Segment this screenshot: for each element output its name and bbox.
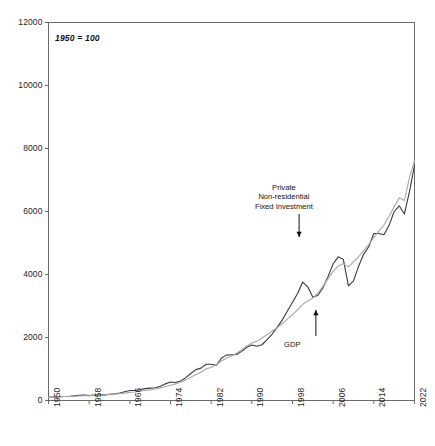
x-axis-tick-label: 1982 — [215, 387, 225, 406]
y-axis-tick-label: 6000 — [0, 206, 43, 216]
x-axis-tick-marks — [49, 401, 415, 405]
series-annotation-private-nonresidential-fixed-investment: PrivateNon-residentialFixed Investment — [255, 183, 313, 211]
x-axis-tick-label: 2014 — [377, 387, 387, 406]
series-annotation-gdp: GDP — [284, 340, 300, 349]
x-axis-tick-label: 2022 — [418, 387, 428, 406]
x-axis-tick-label: 1950 — [52, 387, 62, 406]
x-axis-tick-label: 1998 — [296, 387, 306, 406]
plot-axis-frame — [49, 23, 415, 401]
y-axis-tick-label: 8000 — [0, 143, 43, 153]
y-axis-tick-label: 10000 — [0, 80, 43, 90]
chart-figure: 1950 = 100 020004000600080001000012000 1… — [0, 0, 435, 446]
chart-plot-canvas — [0, 0, 435, 446]
x-axis-tick-label: 1990 — [255, 387, 265, 406]
annotation-arrows — [297, 214, 319, 336]
x-axis-tick-label: 1974 — [174, 387, 184, 406]
y-axis-tick-label: 0 — [0, 395, 43, 405]
x-axis-tick-label: 1966 — [133, 387, 143, 406]
index-base-note: 1950 = 100 — [55, 33, 100, 43]
chart-series-lines — [49, 161, 415, 398]
x-axis-tick-label: 1958 — [93, 387, 103, 406]
y-axis-tick-label: 2000 — [0, 332, 43, 342]
y-axis-tick-label: 12000 — [0, 17, 43, 27]
y-axis-tick-label: 4000 — [0, 269, 43, 279]
x-axis-tick-label: 2006 — [337, 387, 347, 406]
y-axis-tick-marks — [45, 23, 49, 401]
